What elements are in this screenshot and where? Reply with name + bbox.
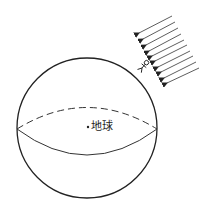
equator-front-solid [17,129,157,155]
person-icon [137,59,150,73]
sunlight-arrows-icon [139,16,199,83]
equator-back-dashed [17,108,157,130]
earth-diagram [0,0,215,215]
earth-label: 地球 [91,121,113,132]
earth-outline [17,58,157,198]
earth-center-dot [87,126,89,128]
